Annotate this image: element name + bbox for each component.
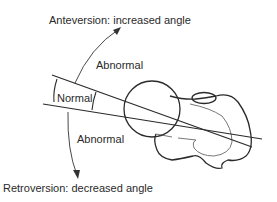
abnormal-lower-label: Abnormal	[77, 134, 124, 145]
retroversion-arrow	[68, 112, 80, 179]
lower-axis-line	[43, 104, 262, 139]
femur-outline	[124, 81, 251, 168]
normal-label: Normal	[57, 93, 92, 104]
anteversion-arrow	[75, 27, 121, 83]
normal-arc-right	[92, 92, 96, 110]
femoral-head	[124, 81, 180, 137]
femur-inner-lines	[156, 104, 232, 156]
retroversion-label: Retroversion: decreased angle	[3, 183, 153, 194]
abnormal-upper-label: Abnormal	[96, 60, 143, 71]
anteversion-label: Anteversion: increased angle	[49, 15, 191, 26]
femoral-version-diagram	[0, 0, 277, 202]
